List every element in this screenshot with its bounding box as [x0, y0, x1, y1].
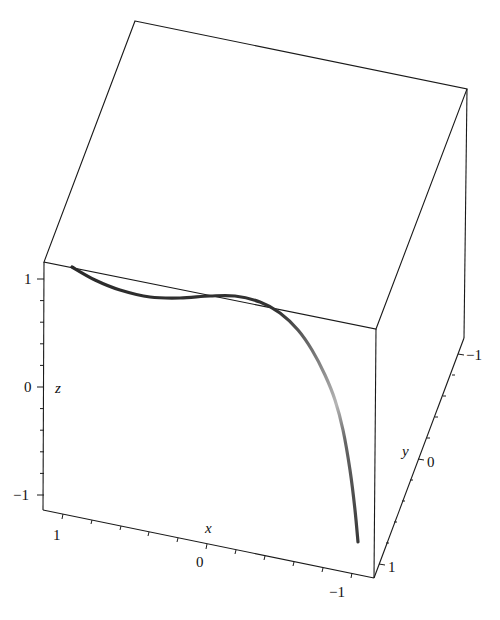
- x-tick-label-0: 0: [196, 554, 204, 570]
- box-front-left-edge: [43, 262, 44, 510]
- y-axis-line: [374, 338, 464, 578]
- y-axis-title: y: [400, 443, 409, 459]
- x-axis-title: x: [204, 520, 212, 536]
- x-tick-label-neg1: −1: [329, 584, 345, 600]
- z-tick-label-1: 1: [24, 271, 32, 287]
- y-tick-label-neg1: −1: [466, 347, 482, 363]
- x-axis-labels: 1 0 −1 x: [53, 520, 345, 600]
- y-axis-ticks: [379, 354, 464, 565]
- y-axis-labels: −1 0 1 y: [388, 347, 482, 575]
- box-back-right-edge: [464, 89, 467, 338]
- box-front-right-edge: [374, 329, 376, 578]
- x-tick-label-1: 1: [53, 527, 61, 543]
- z-axis-title: z: [54, 380, 61, 396]
- z-tick-label-neg1: −1: [13, 487, 29, 503]
- 3d-plot: 1 0 −1 z 1 0 −1 x −1 0 1 y: [0, 0, 500, 620]
- space-curve: [72, 267, 358, 542]
- box-top-face: [44, 21, 467, 329]
- z-tick-label-0: 0: [24, 379, 32, 395]
- y-tick-label-0: 0: [427, 454, 435, 470]
- y-tick-label-1: 1: [388, 559, 396, 575]
